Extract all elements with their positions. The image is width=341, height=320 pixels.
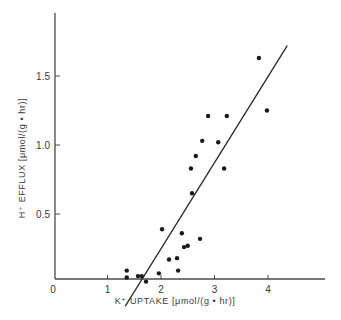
data-point [198, 237, 202, 241]
plot-svg: 01234 0.51.01.5 K⁺ UPTAKE [μmol/(g • hr)… [0, 0, 341, 320]
x-tick-label: 4 [265, 284, 271, 295]
data-point [225, 114, 229, 118]
data-point [144, 279, 148, 283]
data-point [189, 166, 193, 170]
y-axis-label: H⁺ EFFLUX [μmol/(g • hr)] [17, 98, 27, 218]
x-ticks: 01234 [50, 275, 271, 295]
data-point [125, 268, 129, 272]
data-point [140, 274, 144, 278]
data-point [190, 191, 194, 195]
data-point [200, 139, 204, 143]
x-tick-label: 3 [212, 284, 218, 295]
y-tick-label: 1.0 [36, 140, 50, 151]
y-tick-label: 0.5 [36, 209, 50, 220]
data-point [265, 108, 269, 112]
axes [55, 13, 325, 279]
x-tick-label: 0 [50, 284, 56, 295]
x-axis-label: K⁺ UPTAKE [μmol/(g • hr)] [115, 296, 236, 306]
x-tick-label: 1 [105, 284, 111, 295]
data-point [186, 244, 190, 248]
data-point [175, 256, 179, 260]
data-point [157, 271, 161, 275]
data-points [125, 56, 270, 284]
data-point [257, 56, 261, 60]
data-point [180, 231, 184, 235]
data-point [167, 257, 171, 261]
y-ticks: 0.51.01.5 [36, 71, 60, 220]
fit-line [125, 46, 287, 307]
data-point [125, 275, 129, 279]
data-point [176, 268, 180, 272]
data-point [216, 140, 220, 144]
data-point [160, 227, 164, 231]
data-point [222, 166, 226, 170]
regression-line [125, 46, 287, 307]
x-tick-label: 2 [158, 284, 164, 295]
data-point [194, 154, 198, 158]
y-tick-label: 1.5 [36, 71, 50, 82]
data-point [182, 245, 186, 249]
scatter-chart: 01234 0.51.01.5 K⁺ UPTAKE [μmol/(g • hr)… [0, 0, 341, 320]
data-point [206, 114, 210, 118]
data-point [136, 274, 140, 278]
